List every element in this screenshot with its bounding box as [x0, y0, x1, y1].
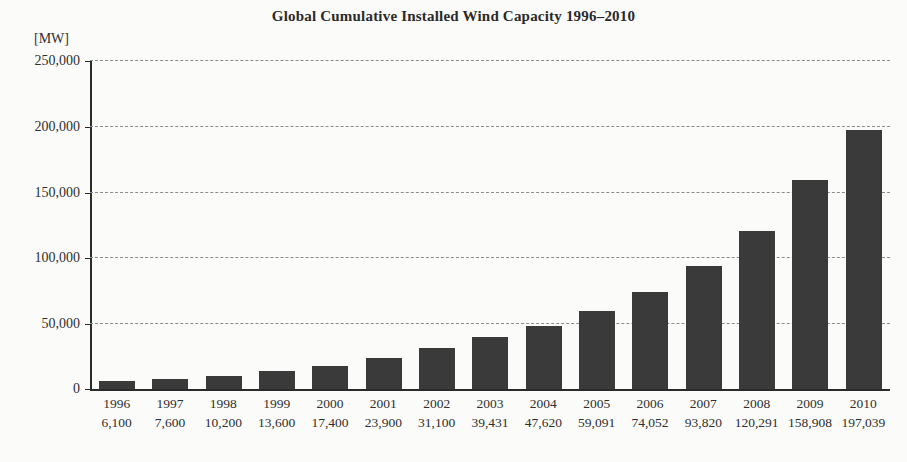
x-axis-year-label: 2003: [463, 394, 516, 413]
x-axis-year-label: 1997: [143, 394, 196, 413]
y-tick-mark-0: [85, 389, 91, 390]
x-axis-year-label: 2002: [410, 394, 463, 413]
x-axis-value-label: 23,900: [357, 413, 410, 432]
bar-slot: [623, 60, 676, 389]
x-axis-year-label: 1999: [250, 394, 303, 413]
bar: [366, 358, 402, 389]
bar: [686, 266, 722, 389]
x-label-group: 200674,052: [623, 394, 676, 432]
bar: [206, 376, 242, 389]
x-axis-year-label: 2004: [517, 394, 570, 413]
y-tick-label-150000: 150,000: [35, 185, 81, 201]
x-axis-value-label: 6,100: [90, 413, 143, 432]
x-label-group: 199913,600: [250, 394, 303, 432]
x-axis-year-label: 2006: [623, 394, 676, 413]
x-label-group: 200793,820: [677, 394, 730, 432]
x-axis-year-label: 2009: [783, 394, 836, 413]
bar-slot: [730, 60, 783, 389]
y-tick-label-0: 0: [73, 381, 80, 397]
plot-area: 050,000100,000150,000200,000250,000: [90, 60, 890, 389]
bar-slot: [783, 60, 836, 389]
x-axis-line: [90, 389, 890, 391]
x-axis-value-label: 120,291: [730, 413, 783, 432]
bar-slot: [570, 60, 623, 389]
x-label-group: 199810,200: [197, 394, 250, 432]
x-label-group: 200339,431: [463, 394, 516, 432]
wind-capacity-bar-chart: Global Cumulative Installed Wind Capacit…: [0, 0, 907, 462]
x-axis-value-label: 31,100: [410, 413, 463, 432]
bar: [632, 292, 668, 389]
bar: [792, 180, 828, 389]
x-axis-value-label: 158,908: [783, 413, 836, 432]
x-axis-year-label: 1996: [90, 394, 143, 413]
x-label-group: 2008120,291: [730, 394, 783, 432]
bar-slot: [197, 60, 250, 389]
y-tick-label-200000: 200,000: [35, 119, 81, 135]
bar-slot: [410, 60, 463, 389]
bar-slot: [143, 60, 196, 389]
x-axis-year-label: 2008: [730, 394, 783, 413]
bar-slot: [250, 60, 303, 389]
x-axis-value-label: 13,600: [250, 413, 303, 432]
y-axis-unit-label: [MW]: [34, 31, 69, 47]
bar: [259, 371, 295, 389]
bar-slot: [357, 60, 410, 389]
x-axis-year-label: 2001: [357, 394, 410, 413]
y-tick-label-50000: 50,000: [42, 316, 81, 332]
chart-title: Global Cumulative Installed Wind Capacit…: [0, 8, 907, 25]
x-axis-value-label: 39,431: [463, 413, 516, 432]
bar-slot: [517, 60, 570, 389]
x-axis-value-label: 17,400: [303, 413, 356, 432]
x-label-group: 200123,900: [357, 394, 410, 432]
bar: [99, 381, 135, 389]
x-label-group: 200017,400: [303, 394, 356, 432]
y-tick-label-250000: 250,000: [35, 53, 81, 69]
bar: [846, 130, 882, 389]
x-axis-year-label: 2010: [837, 394, 890, 413]
x-label-group: 19977,600: [143, 394, 196, 432]
y-tick-label-100000: 100,000: [35, 250, 81, 266]
bars-layer: [90, 60, 890, 389]
bar: [579, 311, 615, 389]
x-axis-year-label: 2007: [677, 394, 730, 413]
x-label-group: 200447,620: [517, 394, 570, 432]
x-label-group: 200231,100: [410, 394, 463, 432]
x-label-group: 19966,100: [90, 394, 143, 432]
x-axis-value-label: 197,039: [837, 413, 890, 432]
x-axis-year-label: 2000: [303, 394, 356, 413]
x-axis-value-label: 7,600: [143, 413, 196, 432]
bar-slot: [303, 60, 356, 389]
x-axis-value-label: 74,052: [623, 413, 676, 432]
bar-slot: [90, 60, 143, 389]
bar: [472, 337, 508, 389]
x-axis-value-label: 93,820: [677, 413, 730, 432]
bar: [152, 379, 188, 389]
bar: [312, 366, 348, 389]
bar: [419, 348, 455, 389]
x-label-group: 200559,091: [570, 394, 623, 432]
x-axis-labels: 19966,10019977,600199810,200199913,60020…: [90, 394, 890, 444]
x-label-group: 2010197,039: [837, 394, 890, 432]
x-label-group: 2009158,908: [783, 394, 836, 432]
x-axis-year-label: 1998: [197, 394, 250, 413]
bar-slot: [837, 60, 890, 389]
bar: [739, 231, 775, 389]
bar: [526, 326, 562, 389]
x-axis-value-label: 47,620: [517, 413, 570, 432]
x-axis-year-label: 2005: [570, 394, 623, 413]
x-axis-value-label: 10,200: [197, 413, 250, 432]
bar-slot: [677, 60, 730, 389]
x-axis-value-label: 59,091: [570, 413, 623, 432]
bar-slot: [463, 60, 516, 389]
